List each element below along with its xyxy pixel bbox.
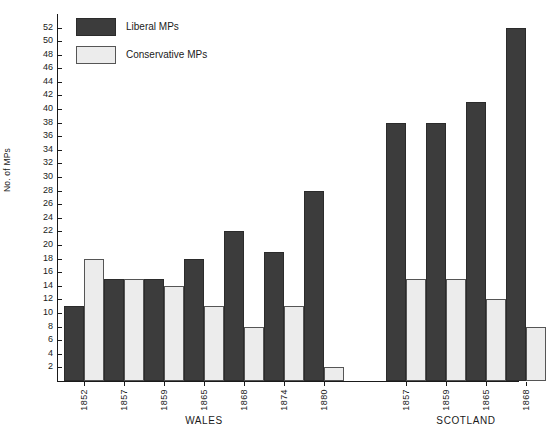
y-axis-tick: 24: [17, 218, 63, 219]
x-axis-tick-mark: [526, 382, 527, 386]
bar-liberal: [104, 279, 124, 381]
y-axis-tick: 14: [17, 286, 63, 287]
y-axis-tick-mark: [57, 245, 62, 246]
bar-liberal: [386, 123, 406, 381]
x-axis-tick-mark: [244, 382, 245, 386]
x-axis-line: [57, 381, 519, 382]
y-axis-tick: 50: [17, 41, 63, 42]
plot-area: 5250484644424038363432302826242220181614…: [57, 14, 519, 382]
y-axis-tick: 46: [17, 68, 63, 69]
x-axis-tick-label: 1859: [441, 389, 451, 411]
y-axis-tick-label: 2: [23, 361, 53, 372]
y-axis-tick-label: 18: [23, 253, 53, 264]
y-axis-tick-mark: [57, 109, 62, 110]
y-axis-tick-label: 10: [23, 307, 53, 318]
y-axis-tick: 48: [17, 55, 63, 56]
y-axis-tick: 6: [17, 340, 63, 341]
y-axis-tick-mark: [57, 191, 62, 192]
y-axis-tick: 8: [17, 327, 63, 328]
bar-conservative: [446, 279, 466, 381]
y-axis-tick-label: 32: [23, 157, 53, 168]
x-axis-tick-label: 1852: [79, 389, 89, 411]
y-axis-tick-mark: [57, 150, 62, 151]
y-axis-tick: 22: [17, 231, 63, 232]
x-axis-tick-label: 1868: [521, 389, 531, 411]
x-axis-tick-mark: [284, 382, 285, 386]
legend-swatch: [76, 18, 116, 36]
y-axis-tick-label: 12: [23, 293, 53, 304]
x-axis-tick-label: 1865: [199, 389, 209, 411]
x-axis-tick-label: 1865: [481, 389, 491, 411]
group-label: WALES: [144, 415, 264, 426]
bar-conservative: [84, 259, 104, 381]
y-axis-tick-label: 52: [23, 22, 53, 33]
y-axis-tick-mark: [57, 299, 62, 300]
x-axis-tick-label: 1874: [279, 389, 289, 411]
y-axis-tick-mark: [57, 218, 62, 219]
y-axis-tick-mark: [57, 177, 62, 178]
y-axis-tick-label: 46: [23, 62, 53, 73]
bar-liberal: [426, 123, 446, 381]
y-axis-tick-label: 34: [23, 144, 53, 155]
y-axis-tick: 42: [17, 95, 63, 96]
bar-liberal: [466, 102, 486, 381]
y-axis-tick: 38: [17, 123, 63, 124]
x-axis-tick-mark: [204, 382, 205, 386]
x-axis-tick-label: 1880: [319, 389, 329, 411]
group-label: SCOTLAND: [406, 415, 526, 426]
y-axis-tick-label: 42: [23, 89, 53, 100]
y-axis-tick-label: 28: [23, 185, 53, 196]
y-axis-tick: 34: [17, 150, 63, 151]
y-axis-tick: 44: [17, 82, 63, 83]
y-axis-tick: 36: [17, 136, 63, 137]
y-axis-tick-mark: [57, 367, 62, 368]
y-axis-tick-mark: [57, 95, 62, 96]
y-axis-tick-mark: [57, 204, 62, 205]
bar-conservative: [406, 279, 426, 381]
y-axis-tick-mark: [57, 163, 62, 164]
x-axis-tick-mark: [124, 382, 125, 386]
legend-label: Conservative MPs: [126, 49, 207, 60]
y-axis-tick-mark: [57, 231, 62, 232]
y-axis-tick: 2: [17, 367, 63, 368]
x-axis-tick-label: 1868: [239, 389, 249, 411]
bar-conservative: [204, 306, 224, 381]
x-axis-tick-label: 1857: [401, 389, 411, 411]
y-axis-tick: 30: [17, 177, 63, 178]
y-axis-tick: 52: [17, 28, 63, 29]
x-axis-tick-mark: [164, 382, 165, 386]
y-axis-tick-mark: [57, 259, 62, 260]
y-axis-tick-mark: [57, 327, 62, 328]
y-axis-tick-mark: [57, 272, 62, 273]
bar-liberal: [64, 306, 84, 381]
y-axis-tick-label: 36: [23, 130, 53, 141]
x-axis-tick-label: 1857: [119, 389, 129, 411]
y-axis-tick-mark: [57, 340, 62, 341]
y-axis-tick-mark: [57, 286, 62, 287]
bar-conservative: [284, 306, 304, 381]
x-axis-tick-mark: [324, 382, 325, 386]
y-axis-tick-label: 30: [23, 171, 53, 182]
y-axis-tick: 10: [17, 313, 63, 314]
y-axis-title: No. of MPs: [2, 130, 12, 210]
bar-liberal: [264, 252, 284, 381]
bar-liberal: [304, 191, 324, 381]
bar-conservative: [124, 279, 144, 381]
y-axis-tick-label: 14: [23, 280, 53, 291]
y-axis-tick-label: 44: [23, 76, 53, 87]
y-axis-tick-mark: [57, 82, 62, 83]
legend-label: Liberal MPs: [126, 21, 179, 32]
y-axis-tick-label: 50: [23, 35, 53, 46]
bar-liberal: [224, 231, 244, 381]
y-axis-tick-label: 16: [23, 266, 53, 277]
x-axis-tick-mark: [446, 382, 447, 386]
y-axis-tick-label: 8: [23, 321, 53, 332]
bar-conservative: [526, 327, 546, 381]
x-axis-tick-label: 1859: [159, 389, 169, 411]
bar-conservative: [244, 327, 264, 381]
y-axis-tick-label: 24: [23, 212, 53, 223]
x-axis-tick-mark: [84, 382, 85, 386]
y-axis-tick-mark: [57, 41, 62, 42]
y-axis-tick: 12: [17, 299, 63, 300]
